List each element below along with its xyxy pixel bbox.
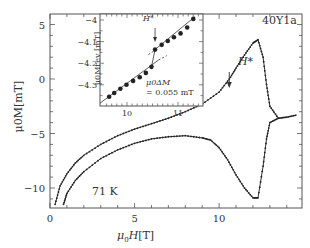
data-point (103, 142, 105, 144)
data-point (176, 135, 178, 137)
data-point (232, 73, 234, 75)
inset-data-point (107, 94, 112, 99)
data-point (111, 138, 113, 140)
data-point (74, 179, 76, 181)
data-point (153, 138, 155, 140)
data-point (262, 56, 264, 58)
data-point (261, 53, 263, 55)
data-point (80, 157, 82, 159)
data-point (111, 152, 113, 154)
data-point (72, 184, 74, 186)
data-point (94, 162, 96, 164)
data-point (57, 194, 59, 196)
data-point (145, 125, 147, 127)
data-point (260, 48, 262, 50)
x-axis-label: μ0H[T] (117, 229, 154, 244)
x-tick-label: 5 (131, 213, 137, 224)
data-point (94, 147, 96, 149)
data-point (248, 48, 250, 50)
data-point (77, 177, 79, 179)
y-tick-label: −10 (24, 183, 45, 194)
x-tick-label: 0 (47, 213, 53, 224)
data-point (100, 144, 102, 146)
data-point (148, 124, 150, 126)
data-point (196, 136, 198, 138)
data-point (223, 85, 225, 87)
data-point (263, 156, 265, 158)
y-axis-label: μ0M[mT] (12, 67, 25, 147)
data-point (264, 147, 266, 149)
temperature-label: 71 K (92, 185, 118, 198)
data-point (263, 65, 265, 67)
data-point (58, 188, 60, 190)
data-point (187, 135, 189, 137)
data-point (136, 142, 138, 144)
data-point (257, 39, 259, 41)
data-point (266, 135, 268, 137)
inset-data-point (149, 65, 154, 70)
data-point (222, 87, 224, 89)
inset-data-point (191, 17, 196, 22)
data-point (267, 94, 269, 96)
data-point (231, 166, 233, 168)
data-point (86, 153, 88, 155)
data-point (79, 158, 81, 160)
data-point (64, 177, 66, 179)
data-point (248, 192, 250, 194)
inset-x-tick-label: 11 (173, 109, 183, 118)
data-point (108, 153, 110, 155)
data-point (131, 144, 133, 146)
data-point (184, 135, 186, 137)
data-point (232, 169, 234, 171)
data-point (153, 122, 155, 124)
x-tick-label: 10 (213, 213, 226, 224)
data-point (117, 149, 119, 151)
data-point (257, 197, 259, 199)
data-point (213, 142, 215, 144)
sample-label: 40Y1a (262, 14, 297, 27)
data-point (227, 80, 229, 82)
data-point (97, 160, 99, 162)
inset-data-point (144, 71, 149, 76)
data-point (97, 145, 99, 147)
inset-delta-m-value: = 0.055 mT (146, 88, 194, 97)
data-point (286, 116, 288, 118)
data-point (86, 169, 88, 171)
data-point (238, 178, 240, 180)
data-point (60, 183, 62, 185)
data-point (131, 129, 133, 131)
data-point (167, 136, 169, 138)
data-point (265, 143, 267, 145)
data-point (184, 111, 186, 113)
data-point (63, 202, 65, 204)
data-point (73, 182, 75, 184)
y-tick-label: 0 (39, 74, 45, 85)
data-point (266, 138, 268, 140)
data-point (218, 91, 220, 93)
data-point (241, 183, 243, 185)
y-tick-label: 5 (39, 20, 45, 31)
data-point (261, 171, 263, 173)
data-point (55, 200, 57, 202)
data-point (246, 50, 248, 52)
data-point (261, 176, 263, 178)
data-point (165, 118, 167, 120)
data-point (89, 166, 91, 168)
data-point (213, 95, 215, 97)
hstar-label: H* (238, 55, 253, 68)
data-point (207, 99, 209, 101)
data-point (66, 173, 68, 175)
data-point (108, 139, 110, 141)
data-point (225, 157, 227, 159)
data-point (291, 115, 293, 117)
data-point (134, 142, 136, 144)
inset-data-point (159, 43, 164, 48)
data-point (220, 89, 222, 91)
data-point (233, 71, 235, 73)
data-point (259, 45, 261, 47)
data-point (293, 115, 295, 117)
data-point (82, 156, 84, 158)
data-point (270, 107, 272, 109)
data-point (210, 97, 212, 99)
data-point (170, 136, 172, 138)
